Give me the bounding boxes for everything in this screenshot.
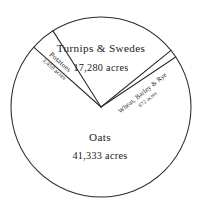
label-oats-name: Oats xyxy=(89,131,111,143)
pie-chart-figure: Turnips & Swedes 17,280 acres Oats 41,33… xyxy=(0,0,203,218)
label-turnips-swedes-name: Turnips & Swedes xyxy=(57,42,145,54)
label-oats-value: 41,333 acres xyxy=(72,150,127,161)
label-turnips-swedes-value: 17,280 acres xyxy=(73,62,128,73)
pie-chart-svg: Turnips & Swedes 17,280 acres Oats 41,33… xyxy=(0,0,203,218)
